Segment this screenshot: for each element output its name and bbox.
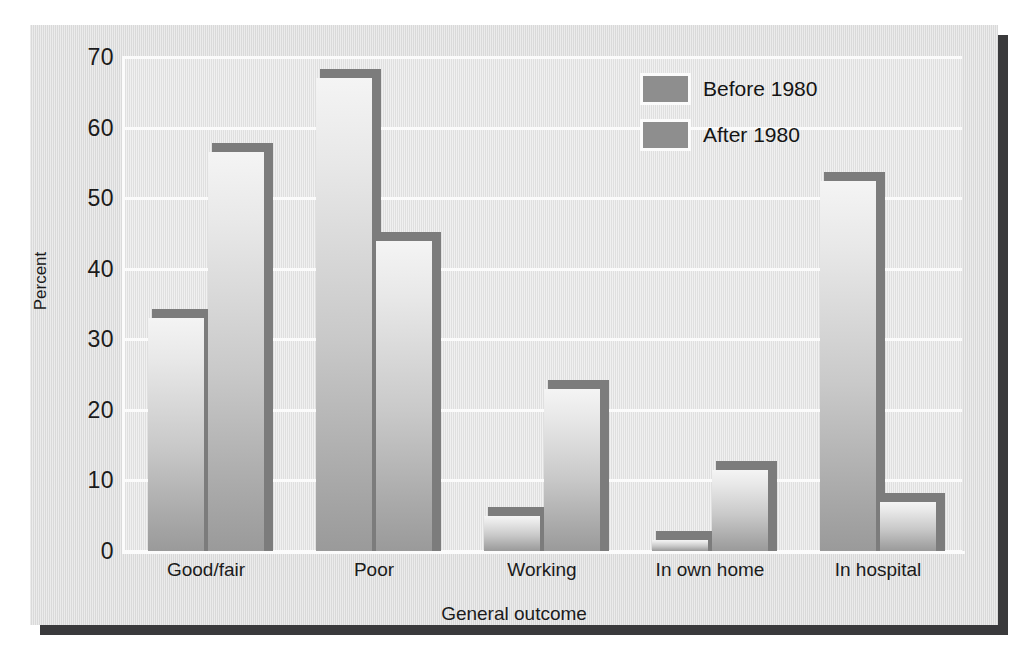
y-axis-ticks: 010203040506070 [40, 25, 114, 625]
bar [376, 241, 432, 552]
x-axis-line [122, 551, 965, 554]
legend-swatch-before-1980 [640, 73, 691, 105]
bar [820, 181, 876, 552]
legend-item-before-1980: Before 1980 [640, 73, 817, 105]
x-tick-label: Working [507, 559, 576, 581]
bar [652, 540, 708, 551]
bar [208, 152, 264, 551]
x-tick-label: Good/fair [167, 559, 245, 581]
bars-layer [122, 57, 962, 551]
bar [544, 389, 600, 551]
x-tick-label: In own home [656, 559, 765, 581]
y-tick-label: 10 [54, 467, 114, 494]
bar [484, 516, 540, 551]
legend-swatch-after-1980 [640, 119, 691, 151]
bar [316, 78, 372, 551]
legend-label-after-1980: After 1980 [703, 123, 800, 147]
bar [712, 470, 768, 551]
legend-item-after-1980: After 1980 [640, 119, 817, 151]
figure-root: 010203040506070 Percent Good/fairPoorWor… [0, 0, 1019, 668]
y-tick-label: 30 [54, 326, 114, 353]
x-tick-label: In hospital [835, 559, 922, 581]
x-axis-title: General outcome [30, 603, 998, 625]
y-tick-label: 20 [54, 396, 114, 423]
y-tick-label: 70 [54, 44, 114, 71]
chart-legend: Before 1980 After 1980 [640, 73, 817, 165]
y-tick-label: 0 [54, 538, 114, 565]
bar [880, 502, 936, 551]
y-tick-label: 50 [54, 185, 114, 212]
y-axis-title: Percent [31, 252, 51, 311]
x-tick-label: Poor [354, 559, 394, 581]
y-tick-label: 40 [54, 255, 114, 282]
y-tick-label: 60 [54, 114, 114, 141]
chart-figure-panel: 010203040506070 Percent Good/fairPoorWor… [30, 25, 998, 625]
legend-label-before-1980: Before 1980 [703, 77, 817, 101]
bar [148, 318, 204, 551]
